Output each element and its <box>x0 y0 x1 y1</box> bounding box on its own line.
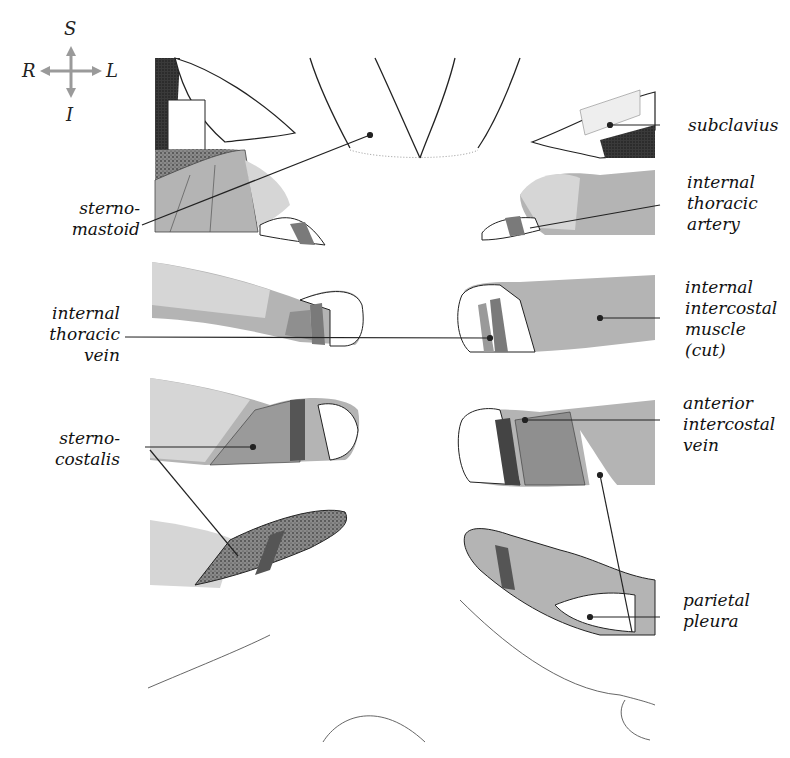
label-internal-thoracic-vein: internal thoracic vein <box>20 303 120 366</box>
thorax-illustration <box>0 0 790 758</box>
label-sternomastoid: sterno- mastoid <box>40 198 140 240</box>
rib-1-left <box>152 262 363 346</box>
rib-1-right <box>458 275 655 352</box>
left-clavicle-region <box>155 58 325 245</box>
label-internal-intercostal-muscle: internal intercostal muscle (cut) <box>685 277 777 361</box>
rib-3-left <box>150 510 347 588</box>
rib-3-right <box>464 529 655 635</box>
label-subclavius: subclavius <box>688 115 778 136</box>
rib-2-right <box>458 400 655 488</box>
lower-center-outline <box>323 716 425 742</box>
label-internal-thoracic-artery: internal thoracic artery <box>687 172 758 235</box>
lower-left-outline <box>148 635 270 688</box>
manubrium-sternum <box>310 58 520 159</box>
right-clavicle-region <box>482 90 655 240</box>
rib-2-left <box>150 378 359 465</box>
label-parietal-pleura: parietal pleura <box>683 590 750 632</box>
label-sternocostalis: sterno- costalis <box>20 428 120 470</box>
label-anterior-intercostal-vein: anterior intercostal vein <box>683 393 775 456</box>
anatomy-diagram: S I R L <box>0 0 790 758</box>
